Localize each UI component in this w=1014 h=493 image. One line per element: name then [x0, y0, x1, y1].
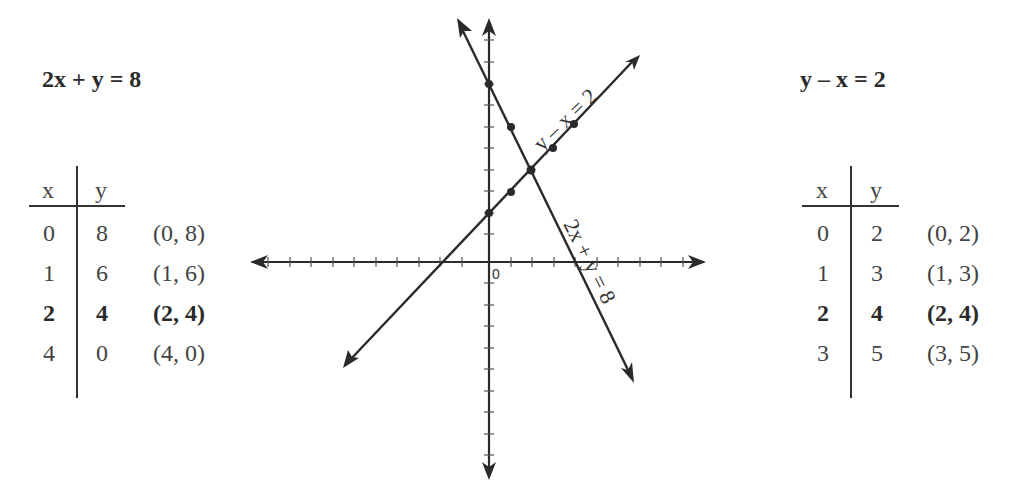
line-y-minus-x-eq-2: y – x = 2 [343, 55, 640, 368]
point-1-6 [507, 123, 515, 131]
point-0-2 [485, 209, 493, 217]
line1-end-arrow-icon [621, 362, 634, 383]
x-axis [250, 255, 706, 269]
coordinate-graph: 0 2x + y = 8 y – x = 2 [0, 0, 1014, 493]
origin-label: 0 [492, 266, 500, 282]
line2-label: y – x = 2 [528, 83, 602, 155]
point-0-8 [485, 80, 493, 88]
line-2x-plus-y-eq-8: 2x + y = 8 [457, 18, 634, 383]
intersection-point-2-4 [527, 166, 536, 175]
point-1-3 [507, 188, 515, 196]
